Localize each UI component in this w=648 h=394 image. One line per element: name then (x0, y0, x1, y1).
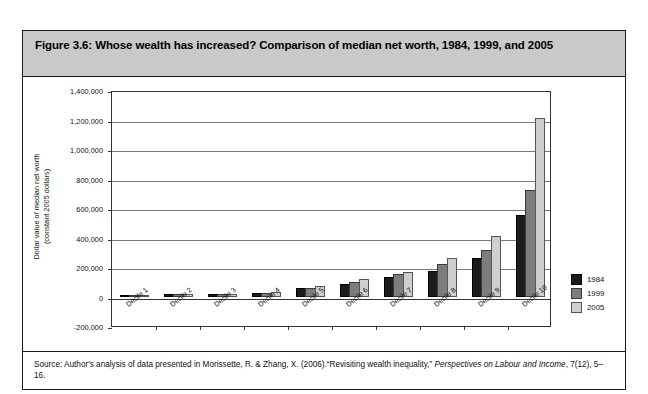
x-tick-mark (156, 326, 157, 330)
y-tick-label: 0 (47, 294, 103, 303)
gridline (112, 210, 550, 211)
y-tick-label: 1,200,000 (47, 117, 103, 126)
y-tick-mark (108, 299, 112, 300)
x-tick-mark (332, 326, 333, 330)
y-axis-title-line1: Dollar value of median net worth (32, 127, 42, 287)
figure-source-note: Source: Author's analysis of data presen… (23, 351, 625, 389)
y-tick-mark (108, 210, 112, 211)
x-tick-mark (376, 326, 377, 330)
y-tick-mark (108, 181, 112, 182)
legend-swatch (571, 302, 582, 313)
y-tick-label: -200,000 (47, 323, 103, 332)
gridline (112, 122, 550, 123)
source-prefix: Source: Author's analysis of data presen… (34, 360, 435, 369)
page-title: Figure 3.6: Whose wealth has increased? … (35, 38, 613, 53)
figure-title-bar: Figure 3.6: Whose wealth has increased? … (23, 31, 625, 77)
source-text: Source: Author's analysis of data presen… (34, 359, 613, 381)
x-tick-mark (508, 326, 509, 330)
gridline (112, 181, 550, 182)
y-tick-mark (108, 240, 112, 241)
bar (535, 118, 546, 297)
x-tick-mark (200, 326, 201, 330)
legend-swatch (571, 288, 582, 299)
chart-area: Dollar value of median net worth (consta… (23, 77, 625, 353)
y-tick-mark (108, 151, 112, 152)
plot-frame (111, 91, 551, 327)
legend-item: 1984 (571, 273, 623, 285)
x-tick-mark (288, 326, 289, 330)
legend-item: 2005 (571, 301, 623, 313)
y-tick-mark (108, 328, 112, 329)
gridline (112, 240, 550, 241)
bar-chart: Dollar value of median net worth (consta… (23, 77, 627, 353)
y-tick-mark (108, 269, 112, 270)
y-axis-tick-labels: 1,400,0001,200,0001,000,000800,000600,00… (47, 77, 103, 353)
x-tick-mark (464, 326, 465, 330)
y-tick-label: 1,000,000 (47, 146, 103, 155)
source-journal-title: Perspectives on Labour and Income (435, 360, 566, 369)
chart-legend: 198419992005 (571, 273, 623, 315)
y-tick-label: 400,000 (47, 235, 103, 244)
legend-item: 1999 (571, 287, 623, 299)
y-tick-label: 800,000 (47, 176, 103, 185)
legend-label: 1999 (587, 289, 604, 298)
legend-label: 1984 (587, 275, 604, 284)
x-tick-mark (244, 326, 245, 330)
x-tick-mark (420, 326, 421, 330)
figure-container: Figure 3.6: Whose wealth has increased? … (22, 30, 626, 390)
y-tick-mark (108, 122, 112, 123)
gridline (112, 151, 550, 152)
y-tick-mark (108, 92, 112, 93)
y-tick-label: 200,000 (47, 264, 103, 273)
y-tick-label: 1,400,000 (47, 87, 103, 96)
legend-swatch (571, 274, 582, 285)
y-tick-label: 600,000 (47, 205, 103, 214)
legend-label: 2005 (587, 303, 604, 312)
